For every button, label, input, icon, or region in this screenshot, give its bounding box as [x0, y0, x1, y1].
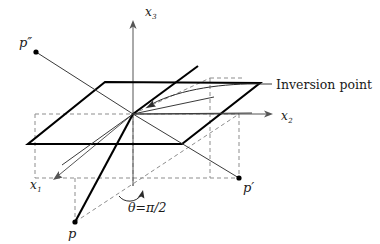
axis-label-x3-base: x	[145, 5, 152, 19]
axis-label-x3-subscript: 3	[152, 13, 157, 21]
axis-label-x2: x2	[281, 109, 293, 125]
annotation-theta-angle: θ=π/2	[128, 200, 166, 215]
ray-origin-to-p-prime	[133, 114, 239, 178]
point-label-p-prime: p′	[243, 180, 254, 195]
theta-arc-arrowhead	[138, 190, 145, 198]
coordinate-axes	[53, 20, 273, 186]
figure-root: x3 x2 x1 p″ p′ p Inversion point θ=π/2	[0, 0, 380, 244]
axis-label-x2-subscript: 2	[287, 117, 293, 125]
axis-label-x2-base: x	[281, 109, 288, 123]
axis-label-x1-subscript: 1	[37, 186, 41, 194]
ray-origin-to-p	[75, 114, 133, 222]
point-label-p: p	[68, 226, 77, 241]
inversion-point-diagram: x3 x2 x1 p″ p′ p Inversion point θ=π/2	[0, 0, 380, 244]
ray-origin-lower-left-thin	[62, 114, 133, 165]
point-label-p-double-prime: p″	[19, 35, 32, 50]
annotation-inversion-point: Inversion point	[276, 77, 372, 92]
dot-p	[72, 219, 77, 224]
dot-p-double-prime	[33, 49, 38, 54]
axis-label-x3: x3	[145, 5, 157, 21]
dot-p-prime	[236, 175, 241, 180]
axis-label-x1: x1	[30, 178, 42, 194]
axis-label-x1-base: x	[30, 178, 37, 192]
axis-x1-arrowhead	[53, 171, 63, 180]
